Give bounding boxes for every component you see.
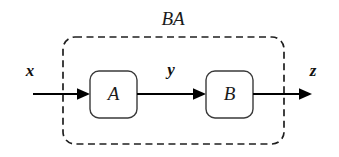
arrowhead-x-to-a [77, 88, 90, 100]
signal-label-y: y [165, 60, 175, 79]
block-a-label: A [106, 83, 120, 104]
arrowhead-b-to-z [299, 88, 312, 100]
block-diagram: BA x A y B z [0, 0, 339, 157]
signal-label-z: z [309, 61, 317, 80]
composite-group-label: BA [161, 8, 185, 29]
diagram-canvas: BA x A y B z [0, 0, 339, 157]
signal-label-x: x [25, 61, 35, 80]
arrowhead-a-to-b [193, 88, 206, 100]
block-b-label: B [224, 83, 236, 104]
